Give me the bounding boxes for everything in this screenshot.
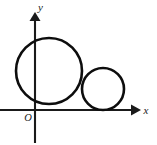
origin-label: O [24, 112, 32, 123]
figure-canvas: y x O [0, 0, 157, 145]
x-axis-label: x [143, 104, 149, 116]
small-circle [82, 68, 124, 110]
y-axis-label: y [37, 1, 43, 13]
y-axis-arrow-icon [30, 12, 41, 21]
large-circle [16, 38, 82, 104]
x-axis-arrow-icon [131, 105, 141, 116]
geometry-figure: y x O [0, 0, 157, 145]
